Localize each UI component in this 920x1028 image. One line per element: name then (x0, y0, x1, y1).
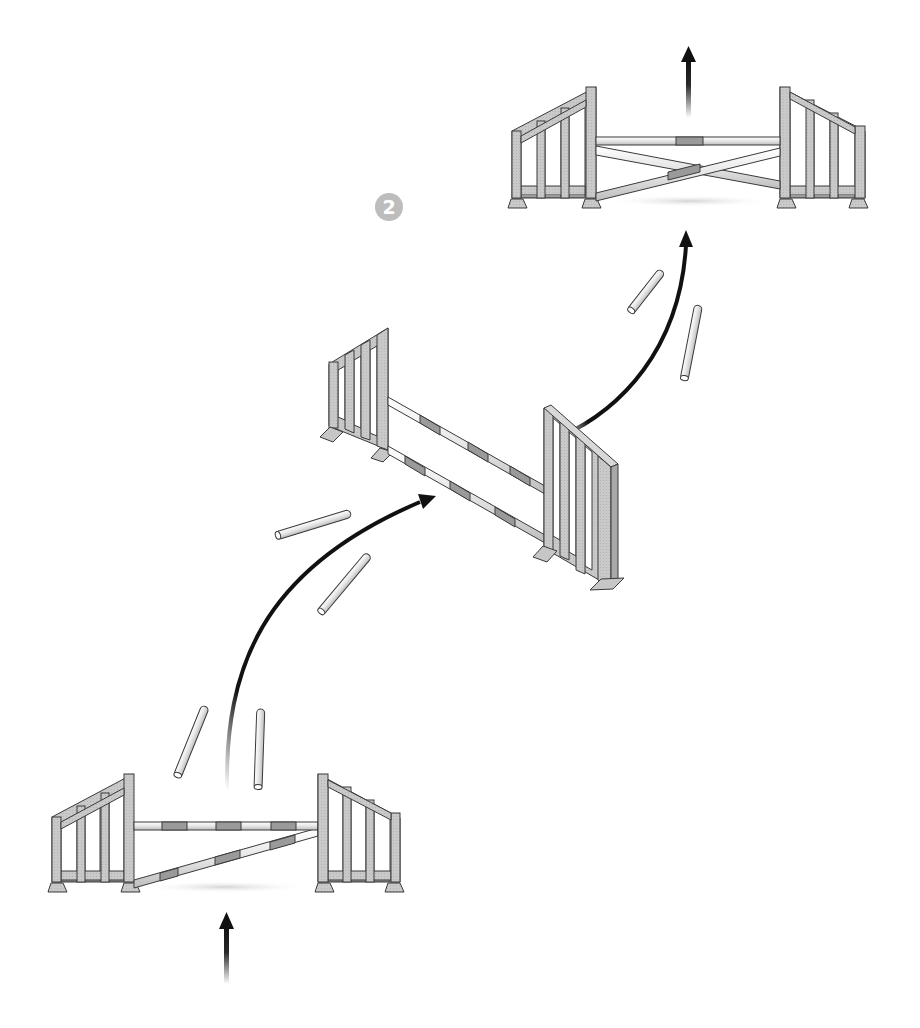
step-badge: 2 (375, 193, 403, 221)
ground-poles-fence-2 (274, 509, 372, 616)
fence-1-right-wing (315, 774, 404, 892)
fence-2-poles (388, 397, 545, 543)
ground-shadow (605, 195, 775, 207)
fence-3-right-wing (777, 87, 868, 208)
fence-2-vertical (320, 328, 624, 590)
step-badge-label: 2 (382, 196, 395, 218)
approach-arrow (219, 912, 234, 984)
ground-poles-fence-3 (627, 269, 703, 382)
jumping-course-diagram: 2 (0, 0, 920, 1028)
fence-1-left-wing (48, 774, 140, 892)
fence-1-ascending (48, 774, 404, 893)
route-arrow-2 (560, 230, 693, 437)
fence-3-poles (596, 137, 780, 201)
fence-3-cross (508, 46, 868, 208)
fence-3-left-wing (508, 87, 601, 208)
ground-shadow (140, 881, 310, 893)
ground-poles-fence-1 (173, 705, 265, 790)
exit-arrow (681, 46, 696, 118)
fence-1-poles (134, 822, 318, 888)
fence-2-left-wing (320, 328, 393, 462)
fence-2-right-wing (533, 405, 624, 590)
